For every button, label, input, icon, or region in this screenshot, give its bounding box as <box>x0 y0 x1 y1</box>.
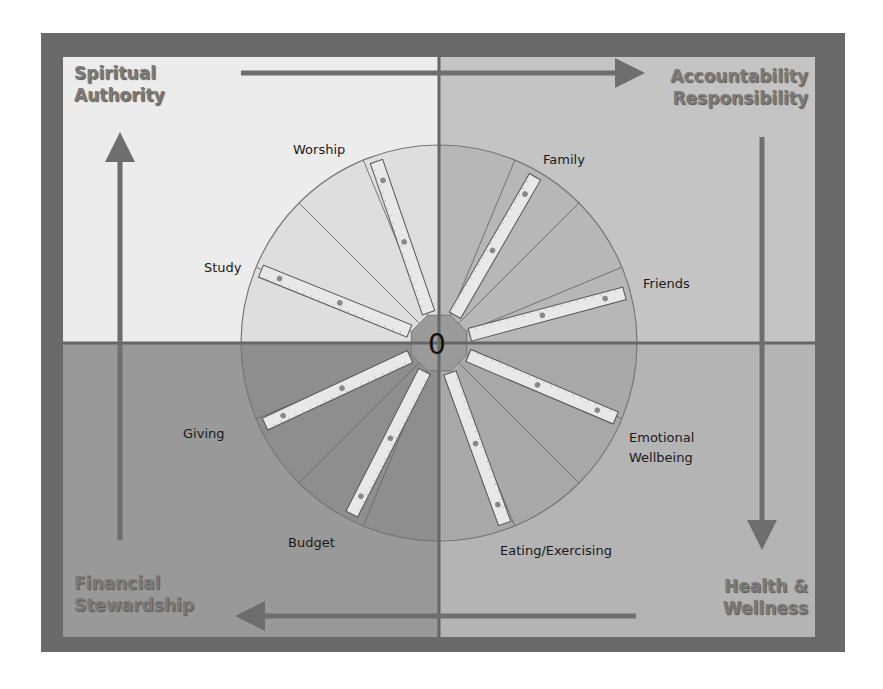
corner-line: Accountability <box>670 65 808 87</box>
corner-line: Authority <box>74 84 165 106</box>
category-label-giving: Giving <box>183 424 224 444</box>
corner-label-financial-stewardship: Financial Stewardship <box>74 572 194 616</box>
corner-line: Spiritual <box>74 62 165 84</box>
corner-line: Responsibility <box>670 87 808 109</box>
category-label-friends: Friends <box>643 274 690 294</box>
label-line: Budget <box>288 533 335 553</box>
label-line: Giving <box>183 424 224 444</box>
center-zero-label: 0 <box>428 328 446 361</box>
category-label-emotional-wellbeing: EmotionalWellbeing <box>629 428 694 468</box>
label-line: Family <box>543 150 585 170</box>
corner-label-spiritual-authority: Spiritual Authority <box>74 62 165 106</box>
corner-line: Stewardship <box>74 594 194 616</box>
wheel-of-life-diagram: 0 Spiritual Authority Accountability Res… <box>0 0 883 689</box>
label-line: Eating/Exercising <box>500 541 612 561</box>
label-line: Friends <box>643 274 690 294</box>
category-label-worship: Worship <box>293 140 345 160</box>
label-line: Worship <box>293 140 345 160</box>
corner-line: Health & <box>723 575 808 597</box>
category-label-study: Study <box>204 258 242 278</box>
category-label-eating-exercising: Eating/Exercising <box>500 541 612 561</box>
corner-label-accountability: Accountability Responsibility <box>670 65 808 109</box>
corner-line: Wellness <box>723 597 808 619</box>
label-line: Study <box>204 258 242 278</box>
corner-line: Financial <box>74 572 194 594</box>
category-label-budget: Budget <box>288 533 335 553</box>
category-label-family: Family <box>543 150 585 170</box>
corner-label-health-wellness: Health & Wellness <box>723 575 808 619</box>
label-line: Wellbeing <box>629 448 694 468</box>
label-line: Emotional <box>629 428 694 448</box>
